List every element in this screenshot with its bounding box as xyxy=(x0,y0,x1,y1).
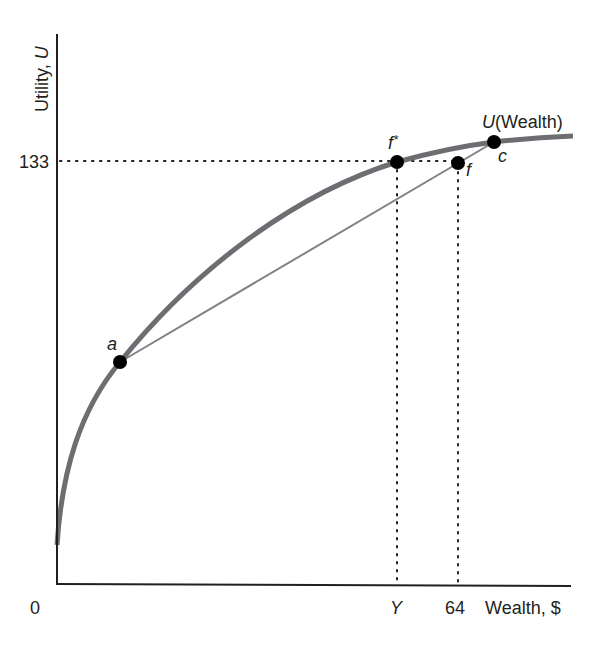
curve-label: U(Wealth) xyxy=(482,112,563,132)
x-tick-Y: Y xyxy=(390,598,404,618)
point-a xyxy=(113,355,127,369)
point-f xyxy=(451,156,465,170)
label-f: f xyxy=(466,160,473,180)
utility-chart: a f* f c U(Wealth) 133 Utility, U 0 Y 64… xyxy=(0,0,609,653)
y-tick-133: 133 xyxy=(19,152,49,172)
x-axis-title: Wealth, $ xyxy=(485,598,561,618)
label-c: c xyxy=(498,146,507,166)
utility-curve xyxy=(57,136,573,545)
x-tick-64: 64 xyxy=(445,598,465,618)
x-axis xyxy=(56,584,571,586)
chord-line xyxy=(120,142,494,362)
y-axis-title: Utility, U xyxy=(32,45,52,112)
point-fstar xyxy=(390,155,404,169)
label-a: a xyxy=(107,334,117,354)
label-fstar: f* xyxy=(388,132,399,153)
origin-label: 0 xyxy=(30,598,40,618)
